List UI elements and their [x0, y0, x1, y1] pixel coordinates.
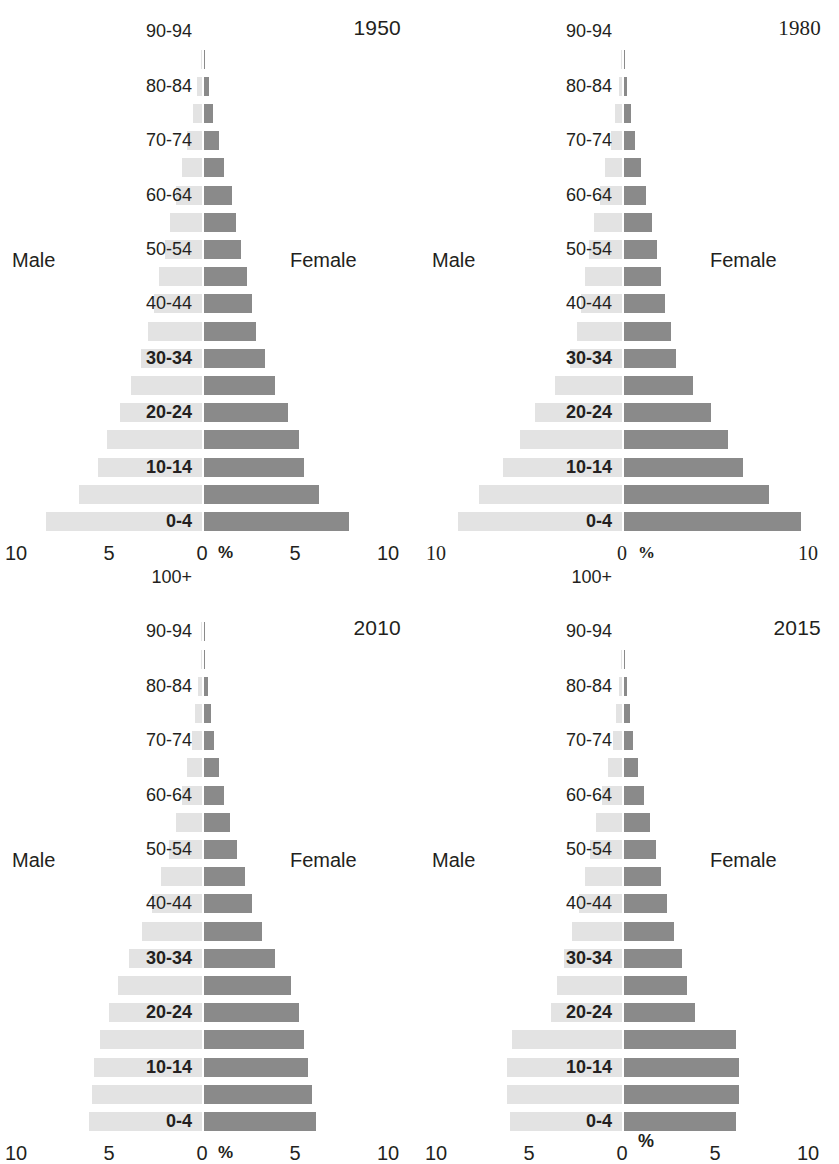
female-bar	[204, 813, 230, 832]
age-band-row	[0, 50, 419, 69]
age-band-row	[0, 1030, 419, 1049]
female-bar	[204, 458, 304, 477]
male-bar	[100, 1030, 202, 1049]
percent-unit-label: %	[638, 1131, 654, 1152]
male-bar	[176, 813, 202, 832]
pyramid-panel-1980: 1980 Male Female 0-410-1420-2430-3440-44…	[420, 0, 839, 580]
female-bar	[624, 1003, 695, 1022]
age-band-row: 90-94	[0, 22, 419, 41]
age-group-label: 50-54	[146, 837, 192, 861]
female-bar	[204, 131, 219, 150]
male-bar	[159, 267, 202, 286]
age-band-row	[420, 1030, 839, 1049]
male-bar	[615, 104, 622, 123]
x-axis-tick: 0	[617, 542, 627, 565]
female-bar	[624, 922, 674, 941]
age-band-row: 30-34	[420, 349, 839, 368]
male-bar	[201, 622, 202, 641]
male-bar	[616, 704, 622, 723]
age-band-row	[420, 213, 839, 232]
age-group-label: 90-94	[146, 19, 192, 43]
male-bar	[107, 430, 202, 449]
age-group-label: 30-34	[146, 946, 192, 970]
male-bar	[507, 1085, 622, 1104]
age-band-row: 0-4	[420, 512, 839, 531]
female-bar	[624, 158, 641, 177]
female-bar	[624, 894, 667, 913]
male-bar	[585, 267, 622, 286]
age-band-row	[420, 976, 839, 995]
x-axis: 10010%	[420, 538, 839, 572]
age-band-row: 60-64	[420, 786, 839, 805]
male-bar	[613, 731, 622, 750]
male-bar	[92, 1085, 202, 1104]
female-bar	[204, 704, 211, 723]
female-bar	[624, 949, 682, 968]
age-band-row: 70-74	[420, 731, 839, 750]
age-band-row	[420, 1085, 839, 1104]
pyramid-plot: 0-410-1420-2430-3440-4450-5460-6470-7480…	[420, 0, 839, 530]
male-bar	[193, 104, 202, 123]
male-bar	[555, 376, 622, 395]
female-bar	[204, 949, 275, 968]
age-band-row	[420, 867, 839, 886]
female-bar	[624, 758, 638, 777]
female-bar	[624, 1030, 736, 1049]
female-bar	[204, 512, 349, 531]
female-bar	[624, 50, 625, 69]
pyramid-panel-1950: 1950 Male Female 0-410-1420-2430-3440-44…	[0, 0, 419, 580]
female-bar	[204, 622, 205, 641]
age-band-row: 80-84	[0, 677, 419, 696]
male-bar	[195, 704, 202, 723]
x-axis-tick: 10	[5, 542, 27, 565]
age-band-row: 60-64	[420, 186, 839, 205]
male-bar	[572, 922, 622, 941]
age-band-row	[420, 650, 839, 669]
age-group-label: 0-4	[586, 509, 612, 533]
x-axis: 1050510%	[420, 1138, 839, 1164]
age-group-label: 90-94	[566, 19, 612, 43]
age-band-row: 20-24	[420, 1003, 839, 1022]
age-group-label: 80-84	[566, 674, 612, 698]
female-bar	[624, 813, 650, 832]
female-bar	[204, 77, 209, 96]
age-band-row	[0, 376, 419, 395]
male-bar	[142, 922, 202, 941]
x-axis-tick: 0	[196, 542, 207, 565]
age-band-row	[420, 158, 839, 177]
age-group-label: 60-64	[146, 183, 192, 207]
age-group-label: 70-74	[566, 128, 612, 152]
female-bar	[624, 867, 661, 886]
male-bar	[187, 758, 202, 777]
age-band-row: 10-14	[0, 458, 419, 477]
age-band-row: 40-44	[420, 894, 839, 913]
percent-unit-label: %	[638, 543, 655, 563]
age-group-label: 90-94	[146, 619, 192, 643]
x-axis-tick: 10	[798, 542, 818, 565]
female-bar	[624, 186, 646, 205]
age-band-row	[0, 650, 419, 669]
age-band-row: 10-14	[0, 1058, 419, 1077]
age-group-label: 60-64	[566, 783, 612, 807]
age-band-row: 40-44	[420, 294, 839, 313]
female-bar	[624, 131, 635, 150]
male-bar	[197, 77, 202, 96]
female-bar	[624, 349, 676, 368]
male-bar	[201, 650, 202, 669]
age-band-row: 30-34	[0, 949, 419, 968]
female-bar	[204, 677, 208, 696]
female-bar	[624, 677, 627, 696]
age-group-label: 60-64	[566, 183, 612, 207]
age-band-row	[0, 213, 419, 232]
female-bar	[204, 1058, 308, 1077]
male-bar	[161, 867, 202, 886]
female-bar	[204, 186, 232, 205]
x-axis-tick: 5	[289, 542, 300, 565]
female-bar	[624, 458, 743, 477]
x-axis-tick: 0	[616, 1142, 627, 1164]
age-band-row	[0, 976, 419, 995]
male-bar	[512, 1030, 622, 1049]
male-bar	[170, 213, 202, 232]
x-axis-tick: 10	[377, 542, 399, 565]
age-band-row: 100+	[420, 568, 839, 587]
